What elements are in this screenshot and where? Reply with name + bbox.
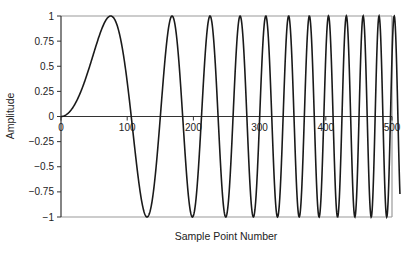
x-tick-label: 0 [58,122,64,133]
y-tick-label: 0 [48,111,54,122]
y-tick-label: 0.5 [40,61,54,72]
y-tick-label: −1 [43,212,55,223]
y-axis-ticks: 10.750.50.250−0.25−0.5−0.75−1 [29,11,61,223]
y-tick-label: 0.75 [35,36,55,47]
y-axis-title: Amplitude [4,93,16,140]
chirp-line-chart: 10.750.50.250−0.25−0.5−0.75−1 0100200300… [0,0,406,254]
y-tick-label: 1 [48,11,54,22]
x-tick-label: 200 [185,122,202,133]
y-tick-label: 0.25 [35,86,55,97]
y-tick-label: −0.5 [34,161,54,172]
x-axis-ticks: 0100200300400500 [58,117,401,133]
x-tick-label: 400 [317,122,334,133]
x-axis-title: Sample Point Number [175,230,278,242]
y-tick-label: −0.25 [29,136,55,147]
y-tick-label: −0.75 [29,186,55,197]
